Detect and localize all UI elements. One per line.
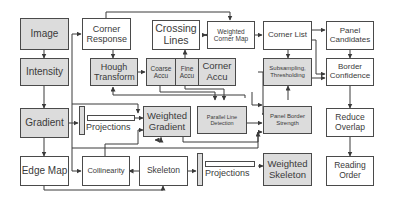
node-weighted-corner-map-label: Weighted Corner Map xyxy=(211,28,251,43)
node-weighted-corner-map: Weighted Corner Map xyxy=(207,21,255,49)
node-image-label: Image xyxy=(31,28,59,39)
projections-2-vertical-bar xyxy=(197,153,203,186)
node-hough-transform-label: Hough Transform xyxy=(94,62,134,82)
node-panel-border-strength: Panel Border Strength xyxy=(263,106,312,134)
node-skeleton: Skeleton xyxy=(139,156,188,186)
node-corner-list: Corner List xyxy=(263,21,312,50)
node-reading-order-label: Reading Order xyxy=(329,161,371,180)
node-collinearity: Collinearity xyxy=(82,156,130,186)
node-edge-map-label: Edge Map xyxy=(22,165,68,176)
node-weighted-skeleton-label: Weighted Skeleton xyxy=(266,159,310,180)
node-corner-response: Corner Response xyxy=(82,18,131,50)
projections-1-horizontal-bar xyxy=(87,115,135,121)
node-reading-order: Reading Order xyxy=(326,156,374,186)
node-border-confidence: Border Confidence xyxy=(326,58,374,86)
node-reduce-overlap-label: Reduce Overlap xyxy=(329,113,371,132)
node-skeleton-label: Skeleton xyxy=(147,166,180,176)
node-weighted-skeleton: Weighted Skeleton xyxy=(263,153,312,186)
node-collinearity-label: Collinearity xyxy=(87,167,124,175)
node-intensity-label: Intensity xyxy=(26,66,63,77)
node-gradient: Gradient xyxy=(20,108,69,138)
node-coarse-accu: Coarse Accu xyxy=(146,58,176,86)
node-panel-border-strength-label: Panel Border Strength xyxy=(266,113,310,126)
node-reduce-overlap: Reduce Overlap xyxy=(326,108,374,137)
node-intensity: Intensity xyxy=(20,58,69,86)
node-coarse-accu-label: Coarse Accu xyxy=(149,65,173,80)
node-border-confidence-label: Border Confidence xyxy=(329,63,371,81)
node-corner-accu: Corner Accu xyxy=(198,58,236,86)
node-corner-response-label: Corner Response xyxy=(87,24,127,44)
node-crossing-lines-label: Crossing Lines xyxy=(155,23,197,47)
node-panel-candidates-label: Panel Candidates xyxy=(329,27,371,45)
node-weighted-gradient-label: Weighted Gradient xyxy=(145,111,189,132)
projections-2-label: Projections xyxy=(205,168,250,178)
node-corner-accu-label: Corner Accu xyxy=(201,61,233,82)
node-edge-map: Edge Map xyxy=(20,156,69,186)
projections-1-vertical-bar xyxy=(79,106,85,135)
node-fine-accu-label: Fine Accu xyxy=(178,65,196,80)
node-fine-accu: Fine Accu xyxy=(175,58,199,86)
node-subsampling-thresholding: Subsampling, Thresholding xyxy=(263,58,312,86)
projections-1-label: Projections xyxy=(86,122,131,132)
node-panel-candidates: Panel Candidates xyxy=(326,21,374,50)
node-parallel-line-detection: Parallel Line Detection xyxy=(197,106,247,134)
node-parallel-line-detection-label: Parallel Line Detection xyxy=(203,114,241,126)
node-weighted-gradient: Weighted Gradient xyxy=(143,106,191,137)
node-gradient-label: Gradient xyxy=(25,117,63,128)
node-hough-transform: Hough Transform xyxy=(90,58,138,86)
node-subsampling-thresholding-label: Subsampling, Thresholding xyxy=(266,65,310,78)
node-corner-list-label: Corner List xyxy=(268,31,307,40)
node-crossing-lines: Crossing Lines xyxy=(152,20,200,50)
node-image: Image xyxy=(20,18,69,50)
projections-2-horizontal-bar xyxy=(205,161,255,167)
